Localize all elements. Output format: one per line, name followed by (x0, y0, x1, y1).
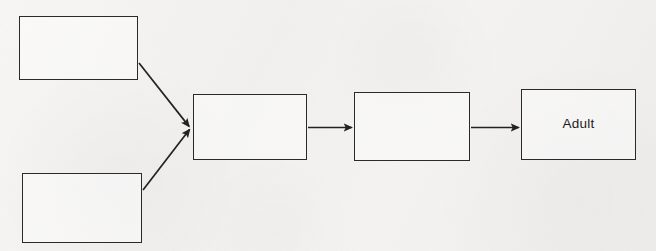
adult-node[interactable]: Adult (521, 89, 636, 160)
bottom-left-node[interactable] (22, 173, 142, 243)
middle-node[interactable] (354, 92, 470, 161)
diagram-canvas: Adult (0, 0, 656, 251)
top-left-node[interactable] (19, 16, 138, 80)
arrow-top-left-to-merge (139, 63, 189, 126)
adult-node-label: Adult (563, 116, 595, 132)
arrow-bottom-left-to-merge (143, 130, 190, 190)
merge-node[interactable] (193, 94, 307, 160)
